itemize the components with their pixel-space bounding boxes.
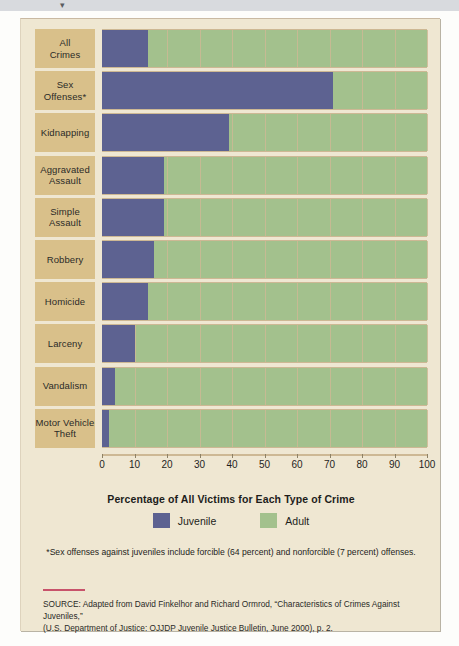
x-axis-tick-label: 80 xyxy=(356,459,367,470)
x-axis-tick-label: 0 xyxy=(99,459,105,470)
x-axis-tick xyxy=(102,454,103,458)
chart-plot-area: AllCrimesSexOffenses*KidnappingAggravate… xyxy=(35,29,427,469)
x-axis-tick-label: 10 xyxy=(129,459,140,470)
table-row: SimpleAssault xyxy=(35,198,427,237)
table-row: AggravatedAssault xyxy=(35,156,427,195)
bar-category-label: Homicide xyxy=(35,282,95,321)
x-axis-tick xyxy=(330,454,331,458)
bar-segment-juvenile xyxy=(102,241,154,278)
x-axis-tick-label: 100 xyxy=(419,459,436,470)
bar-category-label-text: Vandalism xyxy=(43,380,88,392)
bar-segment-juvenile xyxy=(102,410,109,447)
table-row: Homicide xyxy=(35,282,427,321)
table-row: Kidnapping xyxy=(35,113,427,152)
bar-category-label: SimpleAssault xyxy=(35,198,95,237)
bar-category-label: Kidnapping xyxy=(35,113,95,152)
bar-category-label-text: Homicide xyxy=(45,296,85,308)
bar-track-adult xyxy=(102,367,427,406)
bar-segment-juvenile xyxy=(102,157,164,194)
x-axis-tick xyxy=(200,454,201,458)
bar-track-adult xyxy=(102,71,427,110)
bar-track-adult xyxy=(102,324,427,363)
x-axis-tick-label: 20 xyxy=(161,459,172,470)
gridlines xyxy=(102,30,427,67)
bar-track-adult xyxy=(102,113,427,152)
legend-swatch xyxy=(260,513,277,528)
legend-swatch xyxy=(153,513,170,528)
bar-segment-juvenile xyxy=(102,199,164,236)
bar-track-adult xyxy=(102,409,427,448)
x-axis-tick-label: 90 xyxy=(389,459,400,470)
legend-item: Juvenile xyxy=(153,513,217,528)
x-axis-tick xyxy=(265,454,266,458)
legend-label: Juvenile xyxy=(178,515,217,527)
table-row: SexOffenses* xyxy=(35,71,427,110)
bar-segment-juvenile xyxy=(102,325,135,362)
table-row: Larceny xyxy=(35,324,427,363)
x-axis-tick xyxy=(167,454,168,458)
bar-category-label: Vandalism xyxy=(35,367,95,406)
x-axis-tick-label: 50 xyxy=(259,459,270,470)
chart-legend: JuvenileAdult xyxy=(35,513,427,528)
bar-category-label-text: AggravatedAssault xyxy=(40,164,90,187)
chevron-down-icon: ▾ xyxy=(60,0,65,11)
figure-page: ▾ AllCrimesSexOffenses*KidnappingAggrava… xyxy=(0,0,459,646)
bar-category-label: AggravatedAssault xyxy=(35,156,95,195)
table-row: Robbery xyxy=(35,240,427,279)
bar-category-label: Motor VehicleTheft xyxy=(35,409,95,448)
bar-category-label-text: Motor VehicleTheft xyxy=(36,417,95,440)
bar-track-adult xyxy=(102,282,427,321)
bar-segment-juvenile xyxy=(102,30,148,67)
legend-label: Adult xyxy=(285,515,309,527)
bar-segment-juvenile xyxy=(102,72,333,109)
chart-footnote: *Sex offenses against juveniles include … xyxy=(35,547,427,557)
bar-track-adult xyxy=(102,156,427,195)
source-line-1: SOURCE: Adapted from David Finkelhor and… xyxy=(43,598,433,622)
x-axis-tick xyxy=(232,454,233,458)
bar-segment-juvenile xyxy=(102,114,229,151)
x-axis: 0102030405060708090100 xyxy=(102,454,427,484)
gridlines xyxy=(102,368,427,405)
x-axis-tick xyxy=(427,454,428,458)
bar-track-adult xyxy=(102,29,427,68)
bar-category-label: Robbery xyxy=(35,240,95,279)
bar-rows: AllCrimesSexOffenses*KidnappingAggravate… xyxy=(35,29,427,454)
x-axis-title: Percentage of All Victims for Each Type … xyxy=(35,493,427,505)
bar-segment-juvenile xyxy=(102,283,148,320)
table-row: Motor VehicleTheft xyxy=(35,409,427,448)
chart-panel: AllCrimesSexOffenses*KidnappingAggravate… xyxy=(20,18,440,631)
x-axis-tick xyxy=(362,454,363,458)
gridlines xyxy=(102,325,427,362)
table-row: Vandalism xyxy=(35,367,427,406)
x-axis-tick-label: 30 xyxy=(194,459,205,470)
x-axis-tick xyxy=(135,454,136,458)
x-axis-tick-label: 70 xyxy=(324,459,335,470)
window-top-strip: ▾ xyxy=(0,0,459,11)
bar-segment-juvenile xyxy=(102,368,115,405)
bar-category-label-text: Kidnapping xyxy=(41,127,90,139)
x-axis-tick-label: 60 xyxy=(291,459,302,470)
bar-category-label-text: AllCrimes xyxy=(50,37,81,60)
x-axis-tick xyxy=(395,454,396,458)
bar-category-label: Larceny xyxy=(35,324,95,363)
bar-track-adult xyxy=(102,240,427,279)
legend-item: Adult xyxy=(260,513,309,528)
gridlines xyxy=(102,410,427,447)
bar-track-adult xyxy=(102,198,427,237)
bar-category-label-text: Larceny xyxy=(48,338,83,350)
source-line-2: (U.S. Department of Justice: OJJDP Juven… xyxy=(43,622,433,634)
bar-category-label-text: SimpleAssault xyxy=(49,206,81,229)
bar-category-label-text: Robbery xyxy=(47,254,84,266)
bar-category-label: AllCrimes xyxy=(35,29,95,68)
x-axis-tick xyxy=(297,454,298,458)
x-axis-tick-label: 40 xyxy=(226,459,237,470)
source-divider xyxy=(43,589,85,591)
bar-category-label-text: SexOffenses* xyxy=(44,79,86,102)
source-block: SOURCE: Adapted from David Finkelhor and… xyxy=(43,589,433,634)
bar-category-label: SexOffenses* xyxy=(35,71,95,110)
gridlines xyxy=(102,283,427,320)
table-row: AllCrimes xyxy=(35,29,427,68)
